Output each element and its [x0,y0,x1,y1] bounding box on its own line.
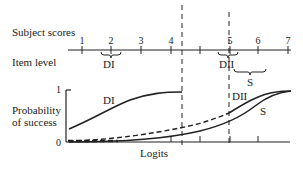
curve-di [69,92,182,129]
item-label-dii: DII [219,58,235,70]
score-tick-label: 4 [169,35,174,46]
score-tick-label: 5 [228,35,233,46]
bracket-s [234,69,266,75]
score-tick-label: 2 [109,35,114,46]
diagram-canvas: 1234567 DI DII S DI DII S [0,0,303,170]
score-tick-label: 3 [139,35,144,46]
item-label-di: DI [103,58,115,70]
score-tick-label: 6 [256,35,261,46]
score-tick-label: 1 [80,35,85,46]
score-tick-label: 7 [286,35,291,46]
curve-label-s: S [260,105,266,117]
item-label-s: S [247,76,253,88]
curve-label-dii: DII [232,90,248,102]
curve-label-di: DI [103,94,115,106]
